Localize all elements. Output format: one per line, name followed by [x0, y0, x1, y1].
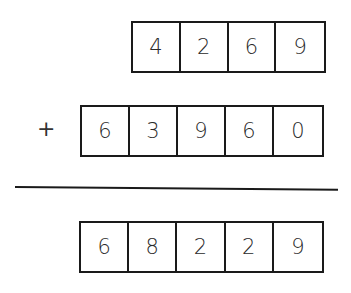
digit-box: 6 [81, 223, 129, 271]
digit-box: 9 [276, 23, 324, 71]
digit-box: 2 [226, 223, 274, 271]
addend-1-boxes: 4 2 6 9 [131, 21, 326, 73]
digit-box: 4 [133, 23, 181, 71]
digit-box: 6 [226, 107, 274, 155]
addend-2-boxes: 6 3 9 6 0 [80, 105, 324, 157]
digit-box: 0 [274, 107, 322, 155]
digit-box: 9 [178, 107, 226, 155]
result-boxes: 6 8 2 2 9 [79, 221, 324, 273]
digit-box: 6 [229, 23, 277, 71]
plus-sign: + [37, 116, 55, 141]
digit-box: 3 [130, 107, 178, 155]
digit-box: 8 [129, 223, 177, 271]
digit-box: 2 [177, 223, 225, 271]
digit-box: 2 [181, 23, 229, 71]
sum-line [15, 186, 338, 191]
digit-box: 9 [274, 223, 322, 271]
digit-box: 6 [82, 107, 130, 155]
